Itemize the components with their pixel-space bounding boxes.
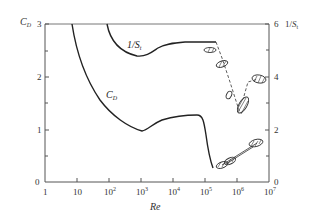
y-left-tick-1: 1 bbox=[37, 125, 42, 135]
x-ticks bbox=[77, 178, 237, 182]
chart: 3 2 1 0 CD 6 4 2 0 1/St 1 10 102 103 104… bbox=[0, 0, 317, 221]
y-right-tick-2: 2 bbox=[274, 125, 279, 135]
left-ticks bbox=[45, 24, 49, 156]
y-right-tick-4: 4 bbox=[274, 72, 279, 82]
x-tick-1e5: 105 bbox=[200, 186, 212, 197]
inv-st-scatter-band bbox=[204, 42, 267, 115]
y-left-title: CD bbox=[20, 16, 32, 28]
x-tick-1e4: 104 bbox=[168, 186, 180, 197]
right-ticks bbox=[265, 24, 269, 156]
y-right-tick-6: 6 bbox=[274, 19, 279, 29]
y-left-tick-2: 2 bbox=[37, 72, 42, 82]
cd-label: CD bbox=[106, 89, 118, 101]
x-tick-1e2: 102 bbox=[104, 186, 116, 197]
x-tick-1e3: 103 bbox=[136, 186, 148, 197]
x-tick-10: 10 bbox=[73, 187, 83, 197]
x-tick-1e6: 106 bbox=[232, 186, 244, 197]
y-left-tick-0: 0 bbox=[35, 177, 40, 187]
cd-scatter-band bbox=[215, 138, 263, 170]
cd-curve bbox=[72, 24, 213, 168]
inv-st-curve bbox=[107, 24, 216, 56]
x-tick-1e7: 107 bbox=[264, 186, 276, 197]
y-left-tick-3: 3 bbox=[37, 19, 42, 29]
x-axis-title: Re bbox=[149, 201, 161, 212]
inv-st-label: 1/St bbox=[127, 39, 142, 51]
x-tick-1: 1 bbox=[43, 187, 48, 197]
y-right-title: 1/St bbox=[285, 19, 299, 30]
